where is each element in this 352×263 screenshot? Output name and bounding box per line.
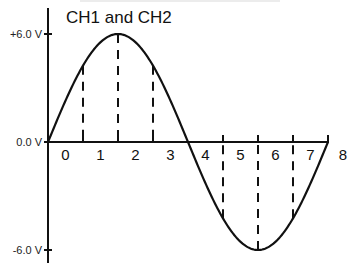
x-tick-label: 6: [271, 146, 279, 163]
oscilloscope-sine-chart: CH1 and CH2 +6.0 V0.0 V-6.0 V 012345678: [0, 0, 352, 263]
x-tick-label: 5: [236, 146, 244, 163]
x-tick-label: 7: [306, 146, 314, 163]
x-tick-label: 0: [61, 146, 69, 163]
x-tick-label: 2: [131, 146, 139, 163]
x-tick-label: 1: [96, 146, 104, 163]
y-tick-label: +6.0 V: [10, 28, 43, 40]
y-tick-label: 0.0 V: [16, 136, 42, 148]
y-axis-ticks: +6.0 V0.0 V-6.0 V: [10, 28, 52, 256]
chart-title: CH1 and CH2: [66, 8, 172, 27]
x-tick-label: 8: [339, 146, 347, 163]
y-tick-label: -6.0 V: [13, 244, 43, 256]
x-tick-label: 3: [166, 146, 174, 163]
x-tick-label: 4: [201, 146, 209, 163]
faint-top-text: [80, 0, 280, 2]
x-axis-ticks: 012345678: [61, 135, 347, 163]
